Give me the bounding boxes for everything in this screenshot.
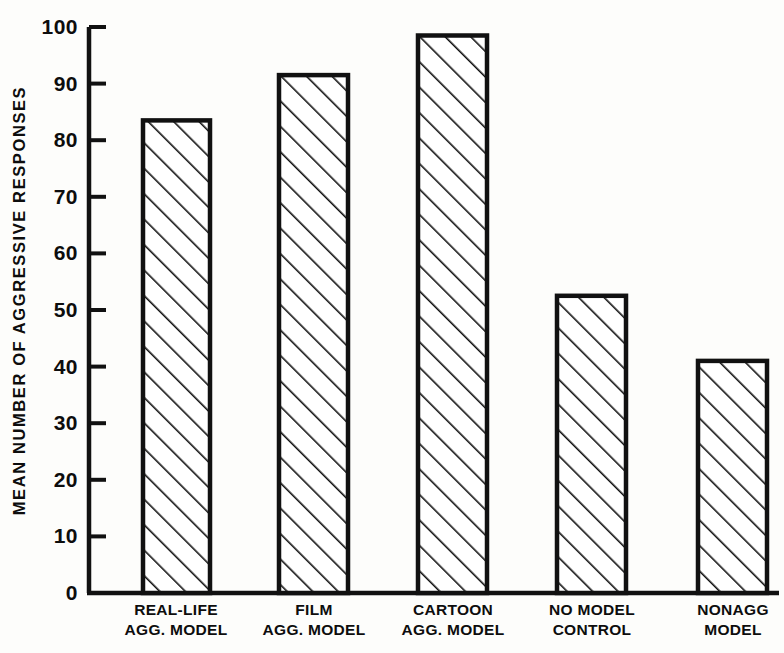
x-label-line2-3: CONTROL: [512, 620, 672, 640]
x-label-line2-0: AGG. MODEL: [96, 620, 256, 640]
x-label-line2-4: MODEL: [653, 620, 784, 640]
chart-figure: MEAN NUMBER OF AGGRESSIVE RESPONSES: [0, 0, 784, 653]
x-label-line1-3: NO MODEL: [549, 601, 635, 618]
x-label-line1-2: CARTOON: [413, 601, 493, 618]
y-tick-label-80: 80: [26, 128, 78, 152]
x-label-line2-2: AGG. MODEL: [373, 620, 533, 640]
bar-real-life-agg-model: [143, 120, 210, 593]
y-tick-label-40: 40: [26, 354, 78, 378]
x-label-line1-1: FILM: [295, 601, 332, 618]
x-label-line2-1: AGG. MODEL: [234, 620, 394, 640]
x-category-label-cartoon-agg-model: CARTOON AGG. MODEL: [373, 600, 533, 640]
y-tick-label-0: 0: [26, 581, 78, 605]
bar-film-agg-model: [279, 75, 348, 593]
plot-area: [0, 0, 784, 653]
chart-canvas: [0, 0, 784, 653]
y-axis-ticks: [89, 27, 106, 536]
bar-cartoon-agg-model: [418, 36, 487, 594]
y-tick-label-90: 90: [26, 71, 78, 95]
y-tick-label-60: 60: [26, 241, 78, 265]
x-label-line1-4: NONAGG: [697, 601, 769, 618]
x-category-label-nonagg-model: NONAGG MODEL: [653, 600, 784, 640]
bars-group: [143, 36, 767, 594]
x-category-label-no-model-control: NO MODEL CONTROL: [512, 600, 672, 640]
x-category-label-real-life-agg-model: REAL-LIFE AGG. MODEL: [96, 600, 256, 640]
x-category-label-film-agg-model: FILM AGG. MODEL: [234, 600, 394, 640]
x-label-line1-0: REAL-LIFE: [134, 601, 218, 618]
y-tick-label-70: 70: [26, 184, 78, 208]
y-tick-label-50: 50: [26, 298, 78, 322]
bar-no-model-control: [557, 296, 626, 593]
y-tick-label-100: 100: [26, 15, 78, 39]
bar-nonagg-model: [698, 361, 767, 593]
y-tick-label-10: 10: [26, 524, 78, 548]
y-tick-label-20: 20: [26, 467, 78, 491]
y-tick-label-30: 30: [26, 411, 78, 435]
